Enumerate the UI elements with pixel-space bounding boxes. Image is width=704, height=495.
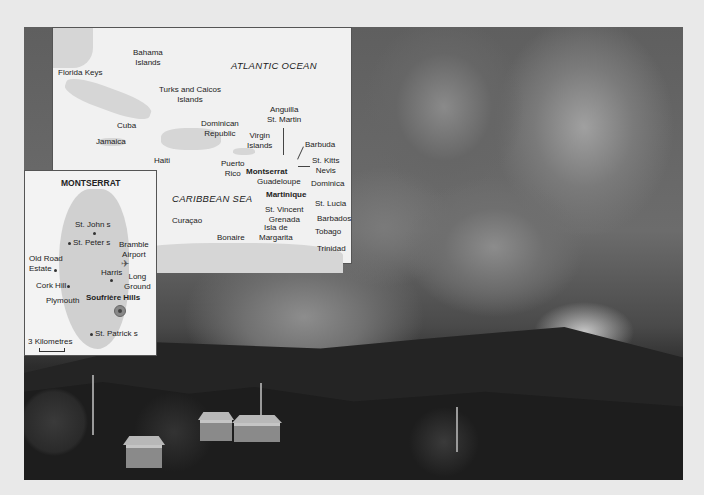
cuba-landmass: [62, 73, 154, 124]
label-turks-caicos: Turks and Caicos Islands: [159, 85, 221, 105]
label-guadeloupe: Guadeloupe: [257, 177, 301, 187]
label-montserrat: Montserrat: [246, 167, 287, 177]
label-caribbean-sea: CARIBBEAN SEA: [172, 194, 252, 204]
label-haiti: Haiti: [154, 156, 170, 166]
label-bramble-airport: Bramble Airport: [119, 240, 149, 260]
place-dot: [54, 269, 57, 272]
label-tobago: Tobago: [315, 227, 341, 237]
house: [126, 445, 162, 468]
house-roof: [198, 412, 234, 420]
label-long-ground: Long Ground: [124, 272, 151, 292]
place-dot: [67, 285, 70, 288]
label-martinique: Martinique: [266, 190, 306, 200]
place-dot: [68, 242, 71, 245]
volcano-icon: [114, 305, 126, 317]
place-dot: [110, 279, 113, 282]
label-st-lucia: St. Lucia: [315, 199, 346, 209]
leader-line: [298, 166, 310, 167]
leader-line: [283, 128, 284, 155]
house: [234, 423, 280, 442]
label-isla-de-margarita: Isla de Margarita: [259, 223, 293, 243]
label-bonaire: Bonaire: [217, 233, 245, 243]
label-virgin-islands: Virgin Islands: [247, 131, 272, 151]
label-st-patricks: St. Patrick s: [95, 329, 138, 339]
label-soufriere-hills: Soufrière Hills: [86, 293, 140, 303]
house-roof: [123, 436, 165, 445]
house: [200, 420, 232, 441]
utility-pole: [92, 375, 94, 435]
house-roof: [232, 415, 282, 423]
leader-line: [297, 146, 304, 159]
label-dominica: Dominica: [311, 179, 344, 189]
utility-pole: [456, 407, 458, 452]
label-st-vincent-grenada: St. Vincent Grenada: [265, 205, 304, 225]
label-trinidad: Trinidad: [317, 244, 346, 254]
label-barbuda: Barbuda: [305, 140, 335, 150]
scale-bar: [39, 348, 65, 352]
label-old-road-estate: Old Road Estate: [29, 254, 63, 274]
label-florida-keys: Florida Keys: [58, 68, 102, 78]
label-dominican-republic: Dominican Republic: [201, 119, 239, 139]
florida-landmass: [53, 28, 93, 68]
label-anguilla-st-martin: Anguilla St. Martin: [267, 105, 301, 125]
label-barbados: Barbados: [317, 214, 351, 224]
label-curacao: Curaçao: [172, 216, 202, 226]
montserrat-map: MONTSERRAT St. John s St. Peter s Brambl…: [24, 170, 157, 356]
label-atlantic-ocean: ATLANTIC OCEAN: [231, 61, 317, 71]
label-cuba: Cuba: [117, 121, 136, 131]
label-jamaica: Jamaica: [96, 137, 126, 147]
label-st-peters: St. Peter s: [73, 238, 110, 248]
label-st-kitts-nevis: St. Kitts Nevis: [312, 156, 340, 176]
scale-label: 3 Kilometres: [28, 337, 72, 347]
label-cork-hill: Cork Hill: [36, 281, 66, 291]
place-dot: [90, 333, 93, 336]
label-harris: Harris: [101, 268, 122, 278]
label-bahama-islands: Bahama Islands: [133, 48, 163, 68]
place-dot: [93, 232, 96, 235]
label-st-johns: St. John s: [75, 220, 111, 230]
montserrat-title: MONTSERRAT: [61, 178, 120, 188]
label-puerto-rico: Puerto Rico: [221, 159, 245, 179]
label-plymouth: Plymouth: [46, 296, 79, 306]
